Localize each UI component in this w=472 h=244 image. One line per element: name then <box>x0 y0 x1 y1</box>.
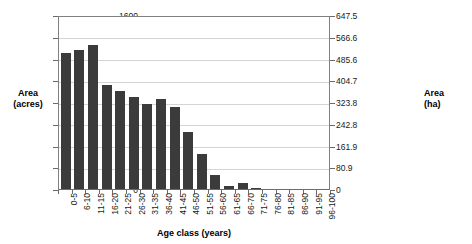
bar-slot <box>236 15 250 189</box>
bar-slot <box>86 15 100 189</box>
bar-slot <box>290 15 304 189</box>
x-axis-tick-label: 81-85 <box>286 193 296 215</box>
y-axis-left-title: Area (acres) <box>2 88 54 110</box>
bar-slot <box>249 15 263 189</box>
bar-slot <box>73 15 87 189</box>
bar <box>88 45 98 189</box>
x-axis-tick-label: 6-10 <box>82 193 92 210</box>
bar <box>224 186 234 189</box>
bar <box>156 99 166 189</box>
bar-series <box>59 17 329 189</box>
x-axis-tick-label: 91-95 <box>314 193 324 215</box>
y-axis-right-tick-label: 161.9 <box>336 142 396 152</box>
y-axis-right-tick-label: 647.5 <box>336 11 396 21</box>
x-axis-tick-label: 46-50 <box>191 193 201 215</box>
bar-slot <box>100 15 114 189</box>
bar-slot <box>59 15 73 189</box>
y-axis-right-title: Area (ha) <box>424 88 470 110</box>
x-axis-tick-label: 16-20 <box>110 193 120 215</box>
y-axis-right-tick-label: 404.7 <box>336 76 396 86</box>
x-axis-tick-label: 61-65 <box>232 193 242 215</box>
bar-slot <box>195 15 209 189</box>
x-axis-tick-label: 71-75 <box>259 193 269 215</box>
bar-slot <box>304 15 318 189</box>
bar-slot <box>113 15 127 189</box>
y-axis-right-tick-label: 485.6 <box>336 55 396 65</box>
bar <box>102 85 112 189</box>
x-axis-tick-label: 86-90 <box>300 193 310 215</box>
x-axis-tick-mark <box>58 190 59 194</box>
bar-slot <box>168 15 182 189</box>
y-axis-right-title-line2: (ha) <box>424 99 470 110</box>
x-axis-tick-label: 21-25 <box>123 193 133 215</box>
y-axis-right-tick-label: 323.8 <box>336 98 396 108</box>
x-axis-tick-label: 76-80 <box>273 193 283 215</box>
x-axis-tick-label: 31-35 <box>150 193 160 215</box>
y-axis-right-tick-label: 80.9 <box>336 163 396 173</box>
bar-slot <box>141 15 155 189</box>
x-axis-title: Age class (years) <box>58 228 330 238</box>
x-axis-tick-label: 66-70 <box>246 193 256 215</box>
bar-slot <box>209 15 223 189</box>
bar <box>129 97 139 189</box>
bar-slot <box>263 15 277 189</box>
bar <box>142 104 152 189</box>
y-axis-left-title-line1: Area <box>2 88 54 99</box>
y-axis-left-title-line2: (acres) <box>2 99 54 110</box>
bar-chart: Area (acres) Area (ha) Age class (years)… <box>0 0 472 244</box>
x-axis-tick-label: 51-55 <box>205 193 215 215</box>
bar <box>183 132 193 189</box>
x-axis-tick-label: 26-30 <box>137 193 147 215</box>
bar <box>74 50 84 189</box>
bar-slot <box>277 15 291 189</box>
bar <box>251 188 261 189</box>
bar <box>197 154 207 189</box>
plot-area <box>58 16 330 190</box>
x-axis-tick-label: 96-100 <box>327 193 337 219</box>
bar-slot <box>317 15 331 189</box>
x-axis-tick-label: 36-40 <box>164 193 174 215</box>
bar-slot <box>127 15 141 189</box>
bar <box>115 91 125 189</box>
y-axis-right-tick-label: 242.8 <box>336 120 396 130</box>
y-axis-right-title-line1: Area <box>424 88 470 99</box>
bar-slot <box>222 15 236 189</box>
x-axis-tick-label: 56-60 <box>218 193 228 215</box>
bar <box>210 175 220 189</box>
bar-slot <box>154 15 168 189</box>
y-axis-right-tick-label: 0 <box>336 185 396 195</box>
y-axis-right-tick-label: 566.6 <box>336 33 396 43</box>
bar-slot <box>181 15 195 189</box>
bar <box>238 183 248 189</box>
bar <box>170 107 180 189</box>
bar <box>61 53 71 189</box>
x-axis-tick-label: 0-5 <box>69 193 79 205</box>
x-axis-tick-label: 11-15 <box>96 193 106 214</box>
x-axis-tick-label: 41-45 <box>178 193 188 215</box>
